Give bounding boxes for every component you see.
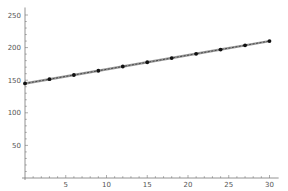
x-tick-label: 25 — [224, 181, 233, 189]
y-tick-label: 50 — [12, 142, 21, 150]
y-tick-label: 200 — [8, 44, 21, 52]
data-point — [243, 43, 247, 47]
x-axis-ticks: 51015202530 — [33, 175, 274, 189]
data-point — [170, 56, 174, 60]
y-tick-label: 150 — [8, 77, 21, 85]
data-series — [23, 39, 271, 85]
data-point — [48, 77, 52, 81]
data-point — [23, 82, 27, 86]
data-point — [194, 52, 198, 56]
line-chart: 51015202530 50100150200250 — [0, 0, 288, 191]
axes — [22, 7, 279, 180]
y-tick-label: 250 — [8, 12, 21, 20]
x-tick-label: 5 — [64, 181, 68, 189]
data-point — [219, 48, 223, 52]
data-point — [268, 39, 272, 43]
x-tick-label: 30 — [265, 181, 274, 189]
x-tick-label: 15 — [143, 181, 152, 189]
data-point — [72, 73, 76, 77]
data-point — [145, 60, 149, 64]
x-tick-label: 10 — [102, 181, 111, 189]
y-tick-label: 100 — [8, 109, 21, 117]
data-point — [96, 69, 100, 73]
x-tick-label: 20 — [184, 181, 193, 189]
data-point — [121, 65, 125, 69]
